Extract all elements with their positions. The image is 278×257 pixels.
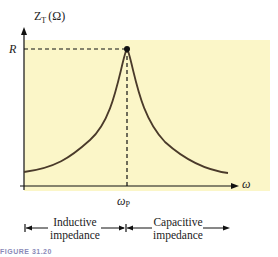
- peak-point: [124, 46, 130, 52]
- figure-caption: FIGURE 31.20: [0, 248, 52, 255]
- arrow-left-icon: [26, 226, 32, 231]
- x-axis-label: ω: [242, 177, 250, 191]
- y-axis-label: ZT(Ω): [34, 9, 65, 25]
- inductive-label-line1: Inductive: [53, 216, 96, 228]
- capacitive-label-line2: impedance: [153, 229, 203, 242]
- inductive-label-line2: impedance: [50, 229, 100, 242]
- capacitive-label-line1: Capacitive: [153, 216, 202, 229]
- arrow-right-icon: [119, 226, 125, 231]
- resonance-label: ωP: [117, 194, 130, 209]
- peak-label: R: [8, 42, 17, 56]
- y-axis-arrow-icon: [21, 27, 27, 35]
- impedance-diagram: ZT(Ω) R ω ωP Inductive impedance Capacit…: [0, 0, 278, 257]
- arrow-right-icon: [223, 226, 230, 231]
